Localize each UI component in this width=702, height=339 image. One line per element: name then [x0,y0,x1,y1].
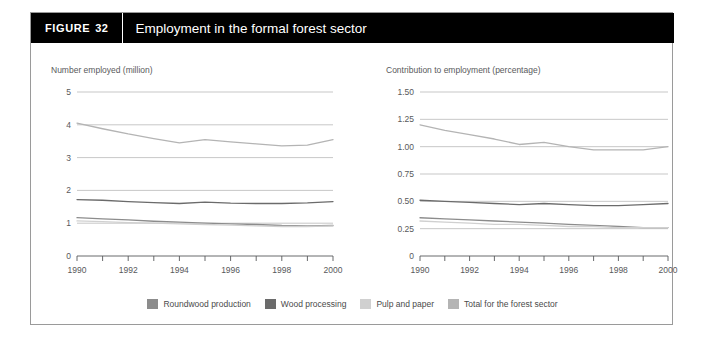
y-axis-tick-label: 5 [66,87,71,97]
y-axis-tick-label: 0 [409,251,414,261]
y-axis-tick-label: 0.75 [397,169,414,179]
legend-item: Roundwood production [147,299,250,309]
y-axis-tick-label: 1.50 [397,87,414,97]
legend-swatch [360,299,371,309]
x-axis-tick-label: 1994 [170,265,189,275]
legend-label: Total for the forest sector [464,299,558,309]
figure-frame: FIGURE32 Employment in the formal forest… [30,12,673,325]
y-axis-tick-label: 1.25 [397,114,414,124]
y-axis-tick-label: 0.50 [397,196,414,206]
x-axis-tick-label: 1992 [460,265,479,275]
x-axis-tick-label: 1992 [119,265,138,275]
y-axis-tick-label: 2 [66,185,71,195]
chart-right-svg: 00.250.500.751.001.251.50199019921994199… [368,43,686,293]
chart-legend: Roundwood productionWood processingPulp … [31,299,674,309]
figure-title: Employment in the formal forest sector [123,21,367,36]
chart-right-canvas: 00.250.500.751.001.251.50199019921994199… [368,43,686,293]
series-line [420,125,668,150]
legend-label: Roundwood production [163,299,250,309]
legend-label: Wood processing [281,299,347,309]
legend-item: Wood processing [265,299,347,309]
chart-panel-right: Contribution to employment (percentage) … [368,43,686,325]
figure-number: 32 [95,22,108,34]
legend-item: Pulp and paper [360,299,434,309]
chart-left-canvas: 012345199019921994199619982000 [33,43,351,293]
figure-tag-label: FIGURE [45,22,90,34]
figure-tag: FIGURE32 [31,22,122,34]
series-line [77,123,333,146]
y-axis-tick-label: 4 [66,120,71,130]
y-axis-tick-label: 1 [66,218,71,228]
series-line [77,200,333,204]
x-axis-tick-label: 2000 [659,265,678,275]
x-axis-tick-label: 1990 [68,265,87,275]
legend-label: Pulp and paper [376,299,434,309]
x-axis-tick-label: 1990 [411,265,430,275]
x-axis-tick-label: 1996 [559,265,578,275]
x-axis-tick-label: 1998 [272,265,291,275]
legend-swatch [265,299,276,309]
y-axis-tick-label: 1.00 [397,142,414,152]
x-axis-tick-label: 1996 [221,265,240,275]
y-axis-tick-label: 0 [66,251,71,261]
chart-panel-left: Number employed (million) 01234519901992… [33,43,351,325]
legend-swatch [448,299,459,309]
x-axis-tick-label: 1994 [510,265,529,275]
y-axis-tick-label: 0.25 [397,224,414,234]
x-axis-tick-label: 1998 [609,265,628,275]
figure-header-bar: FIGURE32 Employment in the formal forest… [31,13,674,43]
x-axis-tick-label: 2000 [324,265,343,275]
legend-item: Total for the forest sector [448,299,558,309]
chart-left-svg: 012345199019921994199619982000 [33,43,351,293]
plot-area: Number employed (million) 01234519901992… [31,43,674,325]
y-axis-tick-label: 3 [66,153,71,163]
legend-swatch [147,299,158,309]
